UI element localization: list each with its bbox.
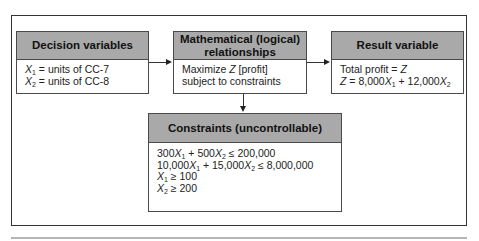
mathematical-relationships-body: Maximize Z [profit] subject to constrain… (174, 60, 306, 87)
result-variable-box: Result variable Total profit = Z Z = 8,0… (331, 31, 464, 94)
objective-line: Maximize Z [profit] (182, 64, 306, 76)
constraints-title: Constraints (uncontrollable) (168, 122, 322, 135)
result-variable-header: Result variable (332, 32, 463, 60)
decision-variables-header: Decision variables (17, 32, 148, 60)
objective-function-line: Z = 8,000X1 + 12,000X2 (340, 76, 463, 88)
constraints-body: 300X1 + 500X2 ≤ 200,000 10,000X1 + 15,00… (149, 143, 341, 194)
bottom-divider (11, 237, 467, 239)
mathematical-relationships-header: Mathematical (logical) relationships (174, 32, 306, 60)
arrow-head-right-icon (166, 59, 172, 65)
mathematical-relationships-box: Mathematical (logical) relationships Max… (173, 31, 307, 94)
result-variable-title: Result variable (357, 39, 439, 52)
math-title-line2: relationships (204, 46, 276, 59)
decision-variable-x2: X2 = units of CC-8 (25, 76, 148, 88)
arrow-decision-to-math (149, 62, 167, 63)
math-title-line1: Mathematical (logical) (180, 33, 300, 46)
result-variable-body: Total profit = Z Z = 8,000X1 + 12,000X2 (332, 60, 463, 87)
arrow-head-right-icon (324, 59, 330, 65)
subject-to-line: subject to constraints (182, 76, 306, 88)
arrow-math-to-result (307, 62, 325, 63)
decision-variables-box: Decision variables X1 = units of CC-7 X2… (16, 31, 149, 94)
decision-variables-body: X1 = units of CC-7 X2 = units of CC-8 (17, 60, 148, 87)
decision-variables-title: Decision variables (32, 39, 133, 52)
constraint-4: X2 ≥ 200 (157, 183, 341, 195)
constraints-header: Constraints (uncontrollable) (149, 114, 341, 143)
arrow-head-down-icon (240, 106, 246, 112)
constraints-box: Constraints (uncontrollable) 300X1 + 500… (148, 113, 342, 212)
